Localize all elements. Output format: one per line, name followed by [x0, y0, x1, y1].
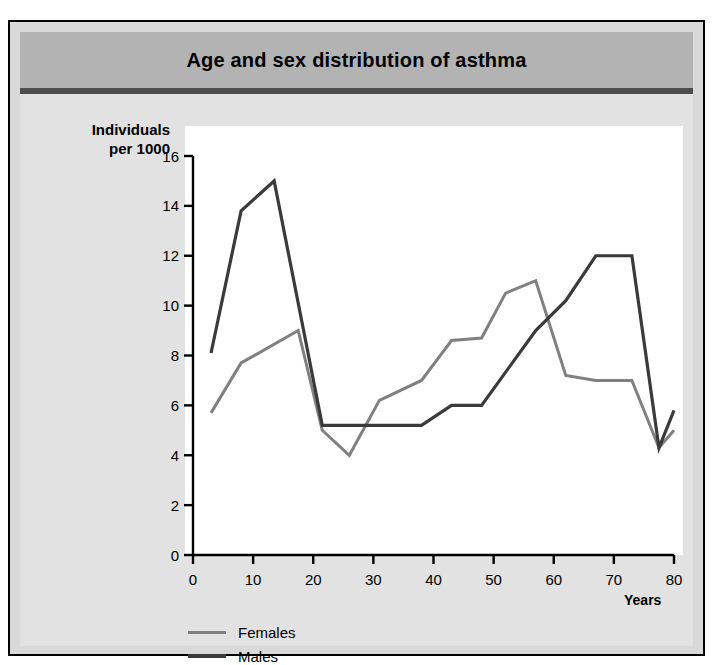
- y-tick-label: 8: [171, 347, 179, 364]
- x-tick-label: 20: [305, 571, 322, 588]
- x-tick-label: 0: [189, 571, 197, 588]
- y-tick-label: 16: [162, 148, 179, 165]
- y-tick-label: 4: [171, 447, 179, 464]
- legend-swatch-females-icon: [188, 631, 226, 634]
- x-tick-label: 60: [545, 571, 562, 588]
- line-chart: 0246810121416 01020304050607080: [10, 22, 707, 658]
- plot-area: [185, 126, 683, 555]
- legend-item-males: Males: [188, 644, 296, 665]
- figure-frame: Age and sex distribution of asthma Indiv…: [8, 20, 705, 656]
- x-axis-tick-labels: 01020304050607080: [189, 571, 683, 588]
- legend-swatch-males-icon: [188, 654, 226, 658]
- y-tick-label: 6: [171, 397, 179, 414]
- y-tick-label: 0: [171, 547, 179, 564]
- x-tick-label: 10: [245, 571, 262, 588]
- y-axis-tick-labels: 0246810121416: [162, 148, 179, 564]
- x-tick-label: 30: [365, 571, 382, 588]
- y-tick-label: 14: [162, 197, 179, 214]
- x-axis-ticks: [193, 555, 674, 564]
- legend: Females Males: [188, 620, 296, 665]
- legend-label-males: Males: [238, 648, 278, 665]
- y-tick-label: 2: [171, 497, 179, 514]
- legend-label-females: Females: [238, 624, 296, 641]
- y-tick-label: 12: [162, 247, 179, 264]
- x-tick-label: 70: [606, 571, 623, 588]
- x-tick-label: 80: [666, 571, 683, 588]
- x-tick-label: 40: [425, 571, 442, 588]
- x-tick-label: 50: [485, 571, 502, 588]
- y-tick-label: 10: [162, 297, 179, 314]
- legend-item-females: Females: [188, 620, 296, 644]
